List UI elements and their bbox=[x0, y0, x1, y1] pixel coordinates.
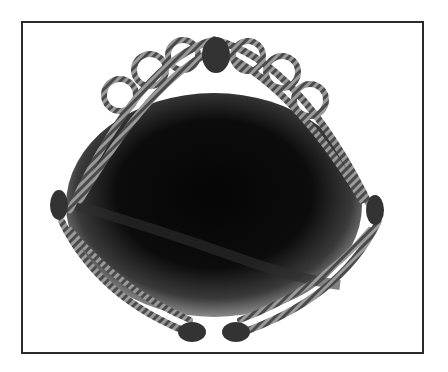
binding-right bbox=[366, 195, 384, 225]
pendant-illustration bbox=[0, 0, 448, 372]
loop-left-1 bbox=[104, 79, 136, 111]
binding-bottom-right bbox=[222, 322, 250, 342]
binding-bottom-left bbox=[178, 322, 206, 342]
binding-left bbox=[50, 190, 68, 220]
binding-top bbox=[202, 37, 230, 73]
